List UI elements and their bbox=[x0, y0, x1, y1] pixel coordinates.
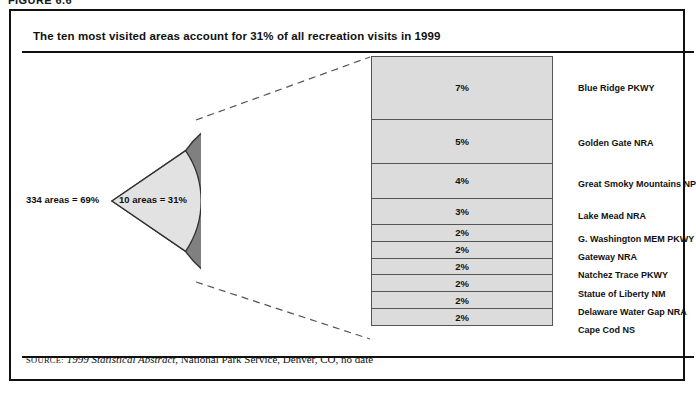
bar-category-label: Golden Gate NRA bbox=[578, 139, 654, 148]
figure-root: FIGURE 6.6 The ten most visited areas ac… bbox=[0, 0, 696, 396]
bar-segment: 2% bbox=[371, 308, 553, 326]
bar-segment: 2% bbox=[371, 258, 553, 276]
bar-category-label: Gateway NRA bbox=[578, 253, 637, 262]
bar-segment-value: 2% bbox=[455, 313, 469, 323]
bar-segment-value: 2% bbox=[455, 262, 469, 272]
bar-segment: 5% bbox=[371, 119, 553, 165]
source-rest: , National Park Service, Denver, CO, no … bbox=[175, 353, 373, 365]
source-kicker: SOURCE: bbox=[26, 355, 64, 365]
bar-category-label: Cape Cod NS bbox=[578, 326, 635, 335]
bar-category-label: Blue Ridge PKWY bbox=[578, 84, 655, 93]
bar-category-label: Natchez Trace PKWY bbox=[578, 271, 668, 280]
pie-label-minor: 10 areas = 31% bbox=[119, 194, 187, 205]
bar-category-label: G. Washington MEM PKWY bbox=[578, 235, 694, 244]
bar-segment-value: 2% bbox=[455, 279, 469, 289]
bar-segment: 2% bbox=[371, 224, 553, 242]
bar-segment: 3% bbox=[371, 198, 553, 225]
source-title: 1999 Statistical Abstract bbox=[67, 353, 176, 365]
bar-segment: 2% bbox=[371, 241, 553, 259]
bar-segment-value: 5% bbox=[455, 137, 469, 147]
bar-category-label: Lake Mead NRA bbox=[578, 212, 646, 221]
pie-label-major: 334 areas = 69% bbox=[26, 194, 99, 205]
bar-segment-value: 3% bbox=[455, 207, 469, 217]
source-note: SOURCE: 1999 Statistical Abstract, Natio… bbox=[26, 353, 373, 365]
bar-segment: 2% bbox=[371, 274, 553, 292]
bar-category-labels: Blue Ridge PKWYGolden Gate NRAGreat Smok… bbox=[578, 56, 690, 340]
bar-segment-value: 4% bbox=[455, 176, 469, 186]
bar-segment-value: 2% bbox=[455, 296, 469, 306]
bar-segment: 2% bbox=[371, 291, 553, 309]
bar-segment-value: 7% bbox=[455, 83, 469, 93]
bar-segment: 7% bbox=[371, 56, 553, 120]
bar-segment: 4% bbox=[371, 163, 553, 200]
bar-segment-value: 2% bbox=[455, 245, 469, 255]
stacked-bar-column: 7%5%4%3%2%2%2%2%2%2% bbox=[371, 56, 553, 340]
bar-category-label: Delaware Water Gap NRA bbox=[578, 308, 687, 317]
bar-segment-value: 2% bbox=[455, 228, 469, 238]
bar-category-label: Great Smoky Mountains NP bbox=[578, 180, 696, 189]
bar-category-label: Statue of Liberty NM bbox=[578, 290, 666, 299]
